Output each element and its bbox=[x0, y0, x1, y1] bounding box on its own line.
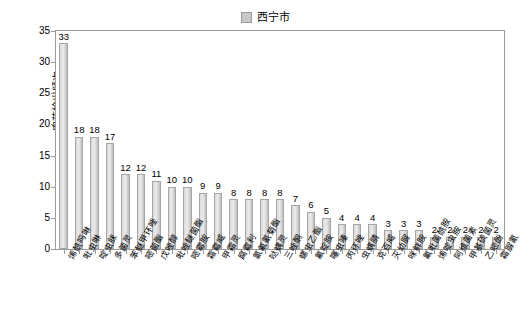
x-tick-mark bbox=[187, 250, 188, 254]
x-tick-mark bbox=[326, 250, 327, 254]
x-tick-mark bbox=[481, 250, 482, 254]
bar-chart: 西宁市 农药检出频次 05101520253035 33181817121211… bbox=[0, 0, 531, 312]
x-tick-mark bbox=[141, 250, 142, 254]
x-tick-mark bbox=[357, 250, 358, 254]
x-tick-mark bbox=[373, 250, 374, 254]
x-tick-mark bbox=[172, 250, 173, 254]
x-tick-mark bbox=[404, 250, 405, 254]
x-tick-mark bbox=[234, 250, 235, 254]
x-tick-mark bbox=[295, 250, 296, 254]
x-tick-mark bbox=[419, 250, 420, 254]
x-tick-mark bbox=[311, 250, 312, 254]
x-tick-mark bbox=[280, 250, 281, 254]
x-tick-mark bbox=[249, 250, 250, 254]
x-tick-mark bbox=[450, 250, 451, 254]
x-tick-mark bbox=[496, 250, 497, 254]
x-tick-mark bbox=[465, 250, 466, 254]
x-tick-mark bbox=[126, 250, 127, 254]
x-tick-mark bbox=[64, 250, 65, 254]
x-tick-mark bbox=[265, 250, 266, 254]
x-tick-mark bbox=[79, 250, 80, 254]
x-tick-mark bbox=[434, 250, 435, 254]
x-tick-mark bbox=[203, 250, 204, 254]
x-tick-mark bbox=[218, 250, 219, 254]
x-tick-mark bbox=[342, 250, 343, 254]
x-tick-mark bbox=[156, 250, 157, 254]
x-tick-mark bbox=[110, 250, 111, 254]
x-axis-labels: 烯酰吗啉吡虫啉啶虫脒多菌灵苯醚甲环唑嘧菌酯戊唑醇吡唑醚菌酯嘧霉胺霜霉威甲霜灵腐霉… bbox=[0, 0, 531, 312]
x-tick-mark bbox=[95, 250, 96, 254]
x-tick-mark bbox=[388, 250, 389, 254]
